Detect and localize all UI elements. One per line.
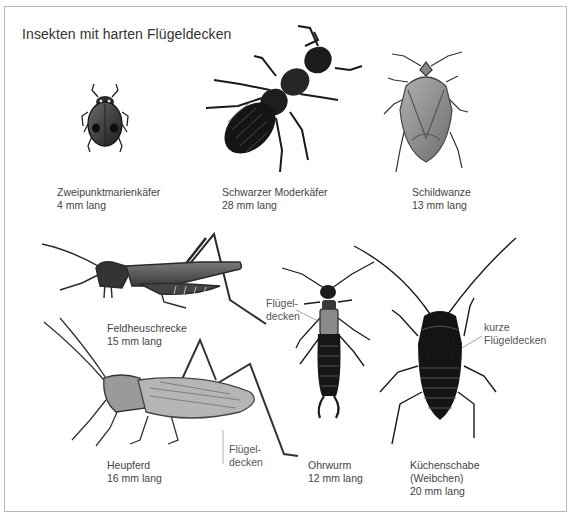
insect-size: 4 mm lang — [57, 199, 160, 212]
callout-line: decken — [229, 456, 263, 469]
insect-name: Küchenschabe — [410, 459, 479, 472]
insect-size: 28 mm lang — [222, 199, 328, 212]
callout-line: decken — [266, 310, 300, 323]
callout-line: kurze — [484, 321, 546, 334]
callout-heupferd-fluegeldecken: Flügel- decken — [229, 443, 263, 469]
ladybird-drawing — [82, 84, 128, 152]
insect-name: Schwarzer Moderkäfer — [222, 186, 328, 199]
callout-schabe-kurze-fluegeldecken: kurze Flügeldecken — [484, 321, 546, 347]
shield-bug-drawing — [384, 52, 468, 172]
label-kuechenschabe: Küchenschabe (Weibchen) 20 mm lang — [410, 459, 479, 498]
insect-name: Feldheuschrecke — [107, 322, 187, 335]
insect-illustrations — [0, 0, 571, 519]
leader-line-schabe — [462, 336, 482, 348]
insect-name: Zweipunktmarienkäfer — [57, 186, 160, 199]
label-zweipunktmarienkaefer: Zweipunktmarienkäfer 4 mm lang — [57, 186, 160, 212]
callout-line: Flügel- — [229, 443, 263, 456]
callout-line: Flügeldecken — [484, 334, 546, 347]
label-schildwanze: Schildwanze 13 mm lang — [412, 186, 471, 212]
insect-size: 13 mm lang — [412, 199, 471, 212]
insect-name: Schildwanze — [412, 186, 471, 199]
insect-name: Ohrwurm — [308, 459, 363, 472]
label-heupferd: Heupferd 16 mm lang — [107, 459, 162, 485]
label-feldheuschrecke: Feldheuschrecke 15 mm lang — [107, 322, 187, 348]
insect-size: 12 mm lang — [308, 472, 363, 485]
insect-size: 15 mm lang — [107, 335, 187, 348]
insect-size: 16 mm lang — [107, 472, 162, 485]
insect-size: 20 mm lang — [410, 485, 479, 498]
label-ohrwurm: Ohrwurm 12 mm lang — [308, 459, 363, 485]
insect-name: Heupferd — [107, 459, 162, 472]
callout-ohrwurm-fluegeldecken: Flügel- decken — [266, 297, 300, 323]
label-schwarzer-moderkaefer: Schwarzer Moderkäfer 28 mm lang — [222, 186, 328, 212]
earwig-drawing — [282, 262, 374, 418]
insect-note: (Weibchen) — [410, 472, 479, 485]
grasshopper-drawing — [42, 234, 266, 324]
callout-line: Flügel- — [266, 297, 300, 310]
rove-beetle-drawing — [206, 26, 362, 172]
